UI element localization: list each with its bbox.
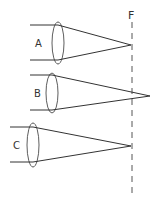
lens-a-label: A bbox=[35, 38, 42, 49]
ray-b-bottom-out bbox=[52, 96, 150, 110]
lens-b-label: B bbox=[34, 88, 41, 99]
lens-a bbox=[52, 22, 64, 64]
ray-a-top-out bbox=[58, 25, 131, 45]
lens-group-a: A bbox=[30, 22, 131, 64]
ray-b-top-out bbox=[52, 75, 150, 96]
lens-b bbox=[46, 73, 58, 113]
ray-a-bottom-out bbox=[58, 45, 131, 60]
focal-label: F bbox=[128, 9, 134, 22]
lens-c-label: C bbox=[13, 140, 20, 151]
lens-c bbox=[27, 123, 39, 167]
ray-c-bottom-out bbox=[33, 146, 131, 162]
lens-group-c: C bbox=[10, 123, 131, 167]
lens-diagram: F A B C bbox=[0, 0, 158, 204]
ray-c-top-out bbox=[33, 127, 131, 146]
